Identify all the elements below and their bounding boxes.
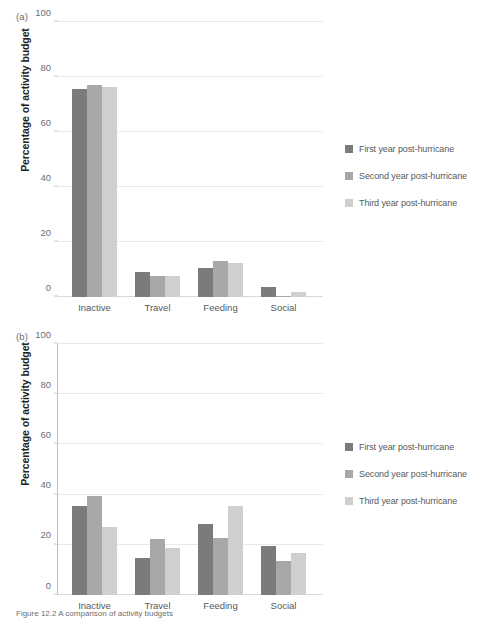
x-axis-tick-label: Social <box>271 302 297 313</box>
y-axis-tick-label: 0 <box>46 579 51 590</box>
legend-swatch-icon <box>345 443 353 451</box>
y-axis-tick-label: 60 <box>40 428 51 439</box>
legend-label: Second year post-hurricane <box>359 469 467 479</box>
bar-group: Feeding <box>198 22 243 297</box>
bar <box>87 85 102 297</box>
bar <box>165 548 180 595</box>
bar-group: Social <box>261 344 306 595</box>
y-axis-tick-label: 0 <box>46 281 51 292</box>
y-axis-tick-label: 80 <box>40 378 51 389</box>
bar <box>165 276 180 297</box>
bar <box>150 539 165 595</box>
y-axis-tick-label: 40 <box>40 479 51 490</box>
y-axis-tick-label: 40 <box>40 171 51 182</box>
chart-panel-b: (b) Percentage of activity budget 020406… <box>0 320 480 605</box>
legend-swatch-icon <box>345 199 353 207</box>
figure-caption: Figure 12.2 A comparison of activity bud… <box>16 609 466 618</box>
legend-item: Third year post-hurricane <box>345 198 467 208</box>
bar <box>72 506 87 595</box>
bar <box>291 553 306 595</box>
bar <box>261 287 276 297</box>
bar <box>261 546 276 595</box>
legend-label: First year post-hurricane <box>359 144 454 154</box>
legend-item: Second year post-hurricane <box>345 469 467 479</box>
y-axis-title-b: Percentage of activity budget <box>19 319 31 509</box>
x-axis-tick-label: Feeding <box>203 302 237 313</box>
y-axis-title-a: Percentage of activity budget <box>19 5 31 195</box>
legend-swatch-icon <box>345 497 353 505</box>
plot-area-b: 020406080100 InactiveTravelFeedingSocial <box>58 344 323 595</box>
bar-group: Travel <box>135 344 180 595</box>
bar-group: Inactive <box>72 344 117 595</box>
plot-area-a: 020406080100 InactiveTravelFeedingSocial <box>58 22 323 297</box>
bar-group: Social <box>261 22 306 297</box>
bar <box>72 89 87 297</box>
x-axis-tick-label: Inactive <box>78 302 111 313</box>
bar <box>102 527 117 595</box>
legend-label: Third year post-hurricane <box>359 496 457 506</box>
bar <box>87 496 102 595</box>
y-axis-tick-label: 60 <box>40 116 51 127</box>
bar <box>198 268 213 297</box>
bar <box>291 292 306 298</box>
bar <box>228 263 243 297</box>
legend-a: First year post-hurricaneSecond year pos… <box>345 144 467 225</box>
legend-swatch-icon <box>345 145 353 153</box>
bars-a: InactiveTravelFeedingSocial <box>58 22 323 297</box>
bars-b: InactiveTravelFeedingSocial <box>58 344 323 595</box>
y-axis-tick-label: 100 <box>35 328 51 339</box>
legend-item: Second year post-hurricane <box>345 171 467 181</box>
bar <box>213 261 228 297</box>
legend-label: First year post-hurricane <box>359 442 454 452</box>
x-axis-tick-label: Travel <box>144 302 170 313</box>
bar-group: Feeding <box>198 344 243 595</box>
bar <box>276 561 291 595</box>
legend-swatch-icon <box>345 470 353 478</box>
legend-swatch-icon <box>345 172 353 180</box>
legend-item: First year post-hurricane <box>345 442 467 452</box>
y-axis-tick-label: 80 <box>40 61 51 72</box>
legend-label: Third year post-hurricane <box>359 198 457 208</box>
bar <box>213 538 228 595</box>
chart-panel-a: (a) Percentage of activity budget 020406… <box>0 0 480 320</box>
y-axis-tick-label: 20 <box>40 226 51 237</box>
y-axis-tick-label: 100 <box>35 6 51 17</box>
legend-item: First year post-hurricane <box>345 144 467 154</box>
bar-group: Inactive <box>72 22 117 297</box>
bar <box>102 87 117 297</box>
legend-label: Second year post-hurricane <box>359 171 467 181</box>
bar <box>198 524 213 595</box>
bar-group: Travel <box>135 22 180 297</box>
legend-item: Third year post-hurricane <box>345 496 467 506</box>
bar <box>150 276 165 297</box>
bar <box>228 506 243 595</box>
bar <box>135 272 150 297</box>
legend-b: First year post-hurricaneSecond year pos… <box>345 442 467 523</box>
bar <box>135 558 150 595</box>
bar <box>276 296 291 297</box>
y-axis-tick-label: 20 <box>40 529 51 540</box>
